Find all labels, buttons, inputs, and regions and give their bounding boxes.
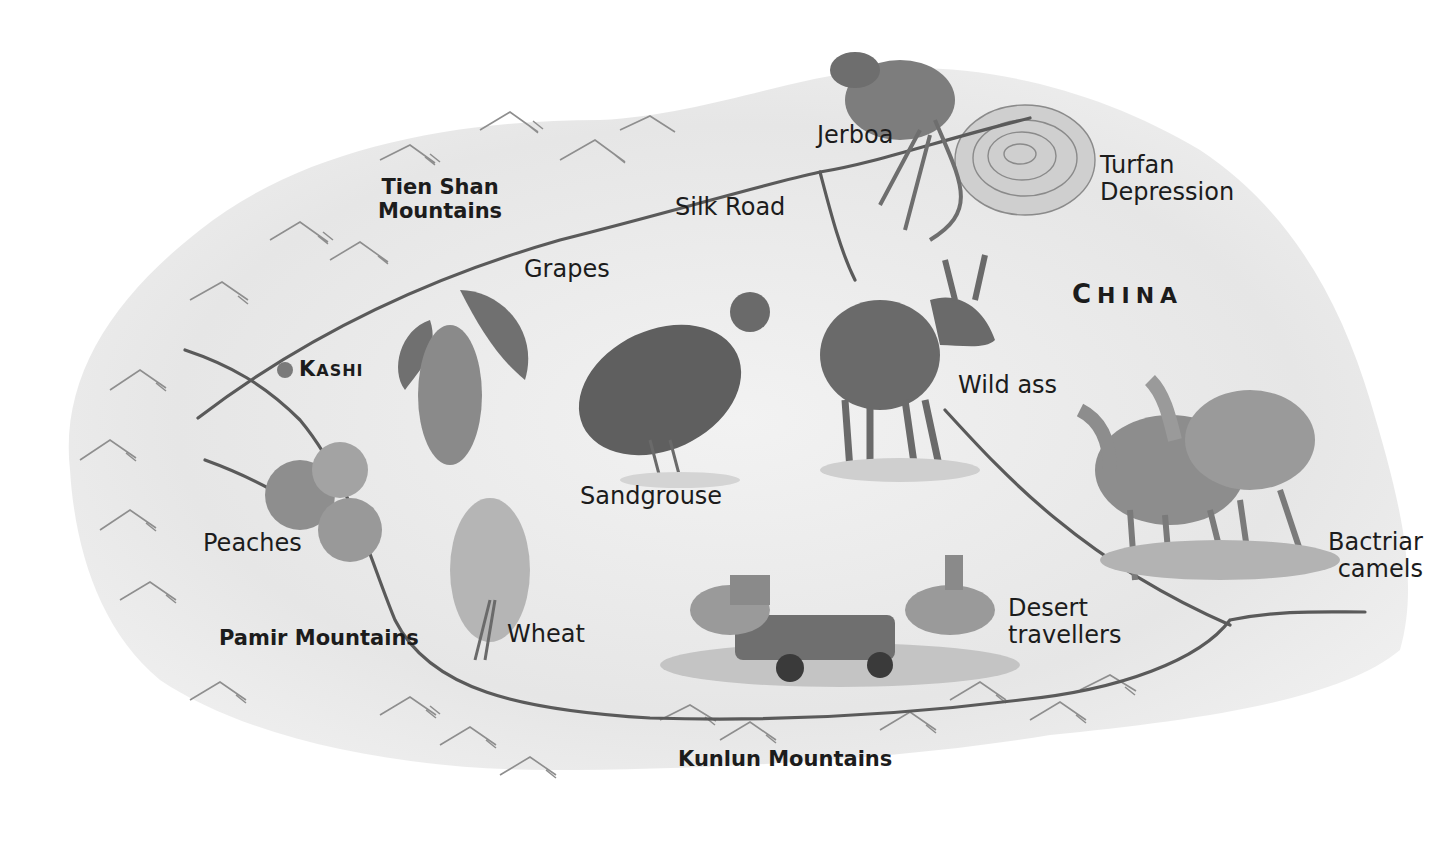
label-desert-travellers: Desert travellers: [1008, 595, 1121, 649]
label-peaches: Peaches: [203, 530, 302, 557]
label-bactrian-camels: Bactriar camels: [1328, 529, 1423, 583]
kashi-city-dot: [277, 362, 293, 378]
label-pamir-mountains: Pamir Mountains: [219, 627, 419, 651]
turfan-depression-contours: [955, 105, 1095, 215]
label-jerboa: Jerboa: [817, 122, 893, 149]
map-illustration: [0, 0, 1437, 845]
label-silk-road: Silk Road: [675, 194, 785, 221]
label-sandgrouse: Sandgrouse: [580, 483, 722, 510]
silk-road-map: Tien Shan Mountains Silk Road Grapes Jer…: [0, 0, 1437, 845]
label-kashi: KASHI: [299, 358, 364, 382]
label-tien-shan-mountains: Tien Shan Mountains: [378, 176, 502, 223]
label-grapes: Grapes: [524, 256, 610, 283]
label-wild-ass: Wild ass: [958, 372, 1057, 399]
label-kunlun-mountains: Kunlun Mountains: [678, 748, 892, 772]
label-wheat: Wheat: [507, 621, 585, 648]
label-turfan-depression: Turfan Depression: [1100, 152, 1234, 206]
label-china: CHINA: [1072, 280, 1183, 309]
